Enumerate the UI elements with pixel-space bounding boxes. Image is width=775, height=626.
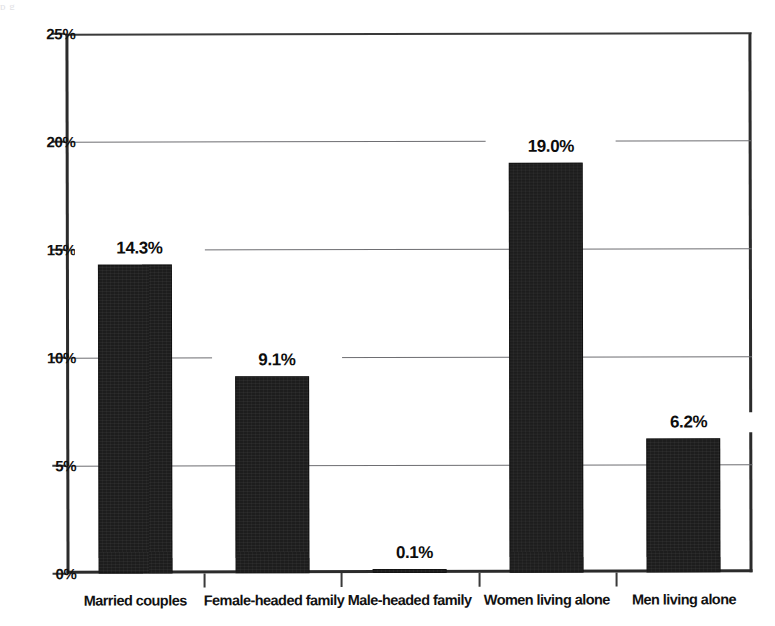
bar-value-label: 6.2% (624, 412, 754, 432)
gridlines (0, 0, 774, 1)
x-axis-category-label: Married couples (67, 592, 204, 608)
bar-value-label: 9.1% (212, 351, 342, 371)
x-axis-category-label: Female-headed family (204, 592, 341, 608)
x-axis-category-label: Women living alone (478, 592, 615, 608)
y-axis-tick-label: 0% (17, 565, 77, 582)
bar-value-label: 19.0% (486, 136, 616, 156)
bar (97, 265, 172, 574)
bar (647, 438, 721, 572)
x-axis-category-label: Men living alone (615, 591, 752, 607)
bar (373, 569, 447, 573)
y-axis-tick-label: 25% (15, 25, 75, 42)
x-axis-category-label: Male-headed family (341, 592, 478, 608)
y-axis-tick-label: 15% (16, 241, 76, 258)
x-axis-tick (478, 573, 480, 587)
x-axis-tick (341, 573, 343, 587)
bar (509, 162, 584, 573)
x-axis-tick (204, 573, 206, 587)
bar-value-labels: 14.3%9.1%0.1%19.0%6.2% (0, 0, 774, 1)
bar-chart: 0%5%10%15%20%25% 14.3%9.1%0.1%19.0%6.2% … (0, 0, 775, 626)
y-axis-labels: 0%5%10%15%20%25% (0, 0, 774, 1)
x-axis-ticks (0, 0, 774, 1)
y-axis-tick-label: 20% (16, 133, 76, 150)
y-axis-tick-label: 5% (16, 457, 76, 474)
x-axis-tick (615, 573, 617, 587)
bar-value-label: 0.1% (349, 543, 479, 563)
y-axis-tick-label: 10% (16, 349, 76, 366)
bar-series (0, 0, 774, 1)
x-axis-labels: Married couplesFemale-headed familyMale-… (0, 0, 774, 1)
y-axis-ticks (0, 0, 774, 1)
bar-value-label: 14.3% (74, 238, 204, 258)
bar (235, 377, 309, 574)
